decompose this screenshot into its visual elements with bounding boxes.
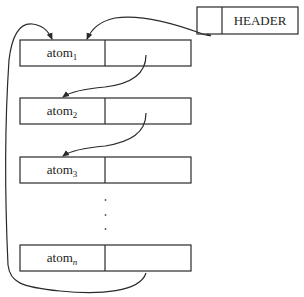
ellipsis-dot <box>105 228 107 230</box>
linked-list-diagram: HEADER atom1 atom2 atom3 atomn <box>0 0 304 297</box>
header-pointer-arrow <box>87 17 211 39</box>
atom-node-1: atom1 <box>20 40 191 66</box>
atom-label: atom2 <box>47 103 78 120</box>
atom-node-n: atomn <box>20 245 191 271</box>
ellipsis-dot <box>105 214 107 216</box>
header-label: HEADER <box>234 13 287 28</box>
ellipsis-dots <box>105 199 107 230</box>
atom-node-3: atom3 <box>20 157 191 183</box>
atom-node-2: atom2 <box>20 98 191 124</box>
header-node: HEADER <box>197 7 298 34</box>
ellipsis-dot <box>105 199 107 201</box>
atom-label: atom1 <box>47 45 78 62</box>
